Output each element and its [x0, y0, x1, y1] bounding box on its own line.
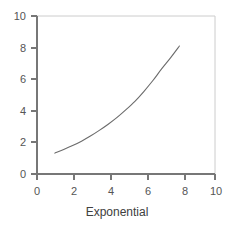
y-tick-label-2: 2 — [20, 136, 26, 148]
y-tick-label-6: 6 — [20, 73, 26, 85]
x-tick-label-4: 4 — [108, 185, 114, 197]
y-tick-label-0: 0 — [20, 168, 26, 180]
x-tick-label-6: 6 — [145, 185, 151, 197]
exponential-line-chart: 10 8 6 4 2 0 0 2 4 6 8 10 Exponential — [0, 0, 234, 230]
y-tick-label-10: 10 — [14, 10, 26, 22]
y-tick-label-8: 8 — [20, 42, 26, 54]
y-tick-label-4: 4 — [20, 105, 26, 117]
x-tick-label-8: 8 — [182, 185, 188, 197]
x-axis-title: Exponential — [86, 205, 149, 219]
x-tick-label-0: 0 — [34, 185, 40, 197]
x-tick-label-2: 2 — [71, 185, 77, 197]
chart-container: 10 8 6 4 2 0 0 2 4 6 8 10 Exponential — [0, 0, 234, 230]
x-tick-label-10: 10 — [210, 185, 222, 197]
